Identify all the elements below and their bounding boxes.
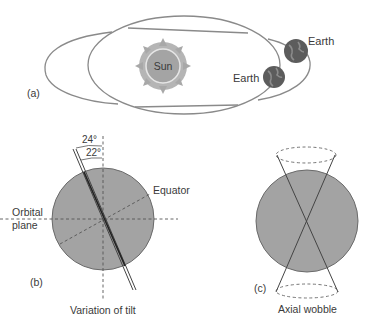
milankovitch-diagram: Sun Earth Earth (a) 24° 22° Equator — [0, 0, 376, 325]
earth-label-far: Earth — [308, 35, 334, 47]
orbital-plane-label-1: Orbital — [12, 206, 43, 218]
panel-c-tag: (c) — [254, 282, 266, 294]
sun-icon: Sun — [135, 38, 191, 94]
precession-circle-bottom — [276, 284, 338, 298]
orbital-plane-label-2: plane — [12, 219, 38, 231]
precession-circle-top — [276, 147, 336, 163]
tilt-max-label: 24° — [82, 134, 97, 145]
earth-icon — [284, 39, 308, 63]
panel-a: Sun Earth Earth (a) — [27, 16, 334, 114]
earth-icon — [263, 66, 285, 88]
eccentric-orbit — [45, 32, 118, 104]
tilt-min-label: 22° — [86, 147, 101, 158]
earth-label-near: Earth — [233, 72, 259, 84]
panel-a-tag: (a) — [27, 87, 40, 99]
panel-c: (c) Axial wobble — [254, 147, 358, 315]
axial-wobble-caption: Axial wobble — [278, 303, 337, 315]
variation-of-tilt-caption: Variation of tilt — [70, 304, 136, 316]
sun-label: Sun — [154, 60, 173, 72]
equator-label: Equator — [153, 184, 190, 196]
panel-b-tag: (b) — [30, 276, 43, 288]
panel-b: 24° 22° Equator Orbital plane (b) Variat… — [0, 134, 190, 316]
